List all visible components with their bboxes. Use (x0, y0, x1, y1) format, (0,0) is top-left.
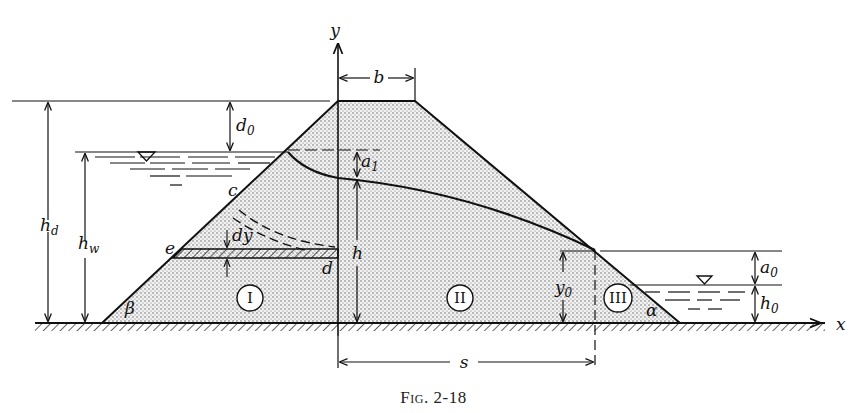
dam-height-label: hd (40, 215, 59, 238)
figure-caption: Fig. 2-18 (0, 388, 867, 408)
tailwater-level-symbol (697, 276, 712, 284)
point-d-label: d (322, 258, 333, 278)
dam-body (102, 101, 680, 323)
strip-thickness-label: dy (232, 225, 253, 245)
tailwater-label: h0 (760, 293, 779, 316)
angle-alpha-label: α (646, 300, 658, 320)
seepage-face-label: a0 (760, 257, 778, 280)
crest-width-label: b (374, 67, 385, 87)
water-depth-label: hw (78, 233, 100, 256)
freeboard-label: d0 (236, 115, 255, 138)
x-axis-label: x (836, 314, 846, 334)
diagram-canvas: I II III y x b d0 hd hw a1 h dy c e d β … (0, 0, 867, 413)
water-hatching (95, 157, 275, 185)
dam-seepage-diagram: I II III y x b d0 hd hw a1 h dy c e d β … (0, 0, 867, 413)
y-axis-label: y (329, 20, 340, 40)
zone-2-label: II (454, 289, 466, 307)
strip-dy (173, 249, 338, 258)
zone-1-label: I (247, 289, 253, 307)
base-length-label: s (460, 352, 469, 372)
zone-3-label: III (609, 289, 627, 307)
head-at-axis-label: h (352, 243, 363, 263)
ground-hatch (35, 323, 825, 331)
point-c-label: c (228, 180, 238, 200)
point-e-label: e (165, 238, 175, 258)
angle-beta-label: β (124, 298, 135, 318)
